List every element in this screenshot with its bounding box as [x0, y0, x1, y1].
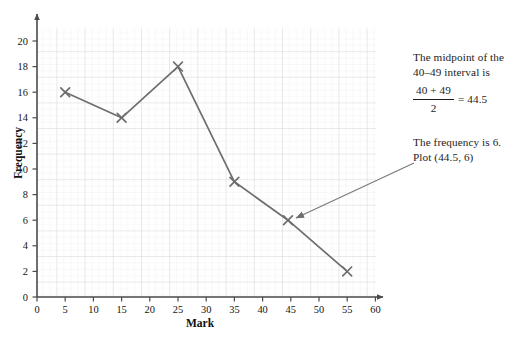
- annotation-frequency-line1: The frequency is 6.: [413, 135, 521, 150]
- annotation-midpoint-formula: 40 + 49 2 = 44.5: [413, 83, 521, 116]
- x-tick-15: 15: [116, 304, 126, 315]
- annotation-frequency: The frequency is 6. Plot (44.5, 6): [413, 135, 521, 165]
- fraction-denominator: 2: [428, 101, 440, 116]
- x-tick-5: 5: [63, 304, 68, 315]
- x-tick-25: 25: [173, 304, 183, 315]
- x-axis-tick-labels: 0 5 10 15 20 25 30 35 40 45 50 55 60: [34, 304, 380, 315]
- annotation-midpoint: The midpoint of the 40–49 interval is 40…: [413, 50, 521, 116]
- x-tick-45: 45: [286, 304, 296, 315]
- fraction-bar: [413, 99, 454, 100]
- plot-grid: [37, 28, 376, 297]
- annotation-midpoint-line2: 40–49 interval is: [413, 65, 521, 80]
- x-tick-50: 50: [314, 304, 324, 315]
- chart-figure: 0 5 10 15 20 25 30 35 40 45 50 55 60: [0, 0, 524, 337]
- y-tick-2: 2: [23, 266, 28, 277]
- y-axis-title: Frequency: [12, 113, 24, 193]
- x-tick-30: 30: [201, 304, 211, 315]
- fraction-numerator: 40 + 49: [413, 83, 454, 98]
- x-tick-60: 60: [370, 304, 380, 315]
- annotation-frequency-line2: Plot (44.5, 6): [413, 150, 521, 165]
- annotation-midpoint-line1: The midpoint of the: [413, 50, 521, 65]
- y-tick-18: 18: [18, 61, 28, 72]
- fraction-result: = 44.5: [458, 92, 487, 107]
- x-tick-55: 55: [342, 304, 352, 315]
- x-tick-40: 40: [257, 304, 267, 315]
- x-tick-0: 0: [34, 304, 39, 315]
- y-tick-20: 20: [18, 36, 28, 47]
- y-tick-4: 4: [23, 240, 29, 251]
- y-tick-16: 16: [18, 87, 28, 98]
- midpoint-fraction: 40 + 49 2: [413, 83, 454, 116]
- x-tick-35: 35: [229, 304, 239, 315]
- y-tick-6: 6: [23, 215, 28, 226]
- x-axis-title: Mark: [186, 317, 214, 329]
- y-tick-0: 0: [23, 292, 28, 303]
- x-tick-10: 10: [88, 304, 98, 315]
- x-tick-20: 20: [145, 304, 155, 315]
